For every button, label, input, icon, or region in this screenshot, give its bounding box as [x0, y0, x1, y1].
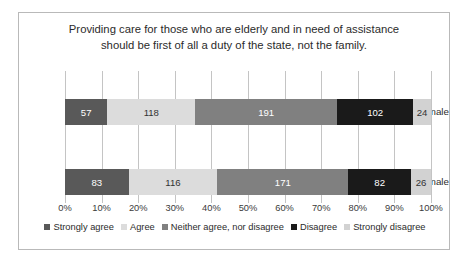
axis-tick-label: 80%: [338, 203, 378, 213]
axis-tick-label: 0%: [45, 203, 85, 213]
bar-segment-value: 83: [91, 177, 102, 188]
legend-item[interactable]: Strongly disagree: [344, 222, 425, 232]
axis-tick-label: 90%: [374, 203, 414, 213]
legend-label: Neither agree, nor disagree: [171, 222, 284, 232]
legend-label: Agree: [130, 222, 155, 232]
legend-swatch-icon: [162, 224, 168, 230]
chart-title-line-2: should be first of all a duty of the sta…: [29, 38, 439, 54]
bar-segment: 26: [411, 169, 431, 195]
bar-segment-value: 171: [275, 177, 291, 188]
axis-tick-label: 40%: [191, 203, 231, 213]
legend-item[interactable]: Neither agree, nor disagree: [162, 222, 284, 232]
legend-item[interactable]: Agree: [121, 222, 155, 232]
bar-segment: 118: [107, 99, 195, 125]
bar-segment-value: 82: [374, 177, 385, 188]
bar-segment-value: 116: [165, 177, 180, 188]
legend-label: Strongly disagree: [353, 222, 425, 232]
chart-title: Providing care for those who are elderly…: [29, 22, 439, 53]
bar-segment-value: 26: [416, 177, 427, 188]
bar-segment-value: 118: [144, 107, 159, 118]
axis-tick-label: 50%: [228, 203, 268, 213]
axis-tick-label: 30%: [155, 203, 195, 213]
bar-segment: 116: [129, 169, 218, 195]
bar-segment: 102: [337, 99, 413, 125]
legend-swatch-icon: [44, 224, 50, 230]
legend-item[interactable]: Disagree: [291, 222, 337, 232]
chart-frame: Providing care for those who are elderly…: [18, 12, 450, 250]
legend-swatch-icon: [291, 224, 297, 230]
bar-segment: 82: [348, 169, 411, 195]
bar-segment: 83: [65, 169, 129, 195]
axis-tick-label: 70%: [301, 203, 341, 213]
axis-tick-label: 20%: [118, 203, 158, 213]
legend-item[interactable]: Strongly agree: [44, 222, 113, 232]
gridline: [431, 71, 432, 199]
axis-tick-label: 10%: [82, 203, 122, 213]
bar-row: 831161718226: [65, 169, 431, 195]
bar-segment-value: 102: [367, 107, 383, 118]
bar-segment: 57: [65, 99, 107, 125]
bar-segment-value: 57: [81, 107, 92, 118]
bar-segment: 191: [195, 99, 337, 125]
axis-tick-label: 60%: [265, 203, 305, 213]
bar-segment-value: 24: [417, 107, 428, 118]
bar-segment: 171: [217, 169, 348, 195]
legend-label: Disagree: [300, 222, 337, 232]
legend-label: Strongly agree: [53, 222, 113, 232]
plot-area: 5711819110224 831161718226: [65, 71, 431, 199]
bar-row: 5711819110224: [65, 99, 431, 125]
bar-segment: 24: [413, 99, 431, 125]
legend-swatch-icon: [121, 224, 127, 230]
chart-legend: Strongly agreeAgreeNeither agree, nor di…: [19, 222, 451, 232]
axis-tick-label: 100%: [411, 203, 451, 213]
bar-segment-value: 191: [258, 107, 274, 118]
chart-title-line-1: Providing care for those who are elderly…: [29, 22, 439, 38]
legend-swatch-icon: [344, 224, 350, 230]
